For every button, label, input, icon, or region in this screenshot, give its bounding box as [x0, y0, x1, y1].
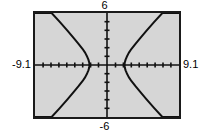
plot-viewport — [33, 11, 181, 119]
curve-left-branch-lower — [35, 65, 90, 117]
window-xmin-label: -9.1 — [0, 59, 31, 70]
window-ymax-label: 6 — [0, 0, 209, 11]
curve-right-branch-lower — [124, 65, 179, 117]
curve-left-branch-upper — [35, 13, 90, 65]
hyperbola-plot — [35, 13, 179, 117]
curve-right-branch-upper — [124, 13, 179, 65]
graphing-calculator-screen: 6 -6 -9.1 9.1 — [0, 0, 209, 134]
window-ymin-label: -6 — [0, 121, 209, 132]
window-xmax-label: 9.1 — [183, 59, 209, 70]
